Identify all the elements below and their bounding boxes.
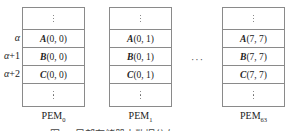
cell-b: B(0, 1) — [110, 48, 171, 66]
figure-caption: 图 … 局部存储器中数据分布 — [50, 126, 175, 131]
row-label-alpha: α — [0, 32, 20, 43]
horizontal-ellipsis: ··· — [191, 54, 204, 65]
cell-b: B(0, 0) — [23, 48, 84, 66]
vertical-ellipsis-icon — [140, 15, 141, 23]
pem-0-label: PEM0 — [22, 110, 85, 123]
cell-c: C(0, 1) — [110, 66, 171, 84]
pem-63-memory-box: A(7, 7) B(7, 7) C(7, 7) — [222, 7, 285, 107]
ellipsis-row-top — [223, 8, 284, 30]
pem-0-memory-box: A(0, 0) B(0, 0) C(0, 0) — [22, 7, 85, 107]
ellipsis-row-bottom — [23, 84, 84, 106]
ellipsis-row-top — [110, 8, 171, 30]
ellipsis-row-bottom — [223, 84, 284, 106]
cell-b: B(7, 7) — [223, 48, 284, 66]
row-label-alpha-plus-2: α+2 — [0, 68, 20, 79]
cell-a: A(7, 7) — [223, 30, 284, 48]
ellipsis-row-bottom — [110, 84, 171, 106]
row-label-alpha-plus-1: α+1 — [0, 50, 20, 61]
cell-a: A(0, 0) — [23, 30, 84, 48]
ellipsis-row-top — [23, 8, 84, 30]
cell-a: A(0, 1) — [110, 30, 171, 48]
cell-c: C(7, 7) — [223, 66, 284, 84]
pem-1-memory-box: A(0, 1) B(0, 1) C(0, 1) — [109, 7, 172, 107]
vertical-ellipsis-icon — [53, 15, 54, 23]
cell-c: C(0, 0) — [23, 66, 84, 84]
vertical-ellipsis-icon — [253, 15, 254, 23]
vertical-ellipsis-icon — [253, 91, 254, 99]
pem-63-label: PEM63 — [222, 110, 285, 123]
pem-1-label: PEM1 — [109, 110, 172, 123]
vertical-ellipsis-icon — [53, 91, 54, 99]
vertical-ellipsis-icon — [140, 91, 141, 99]
